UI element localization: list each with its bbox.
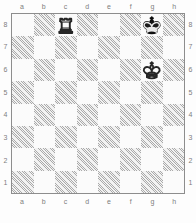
white-rook-icon[interactable] <box>55 14 77 36</box>
square-g4[interactable] <box>141 104 163 126</box>
square-g5[interactable] <box>141 81 163 103</box>
file-label-b-top: b <box>33 1 55 13</box>
square-a1[interactable] <box>12 171 34 193</box>
square-f6[interactable] <box>120 59 142 81</box>
square-f7[interactable] <box>120 36 142 58</box>
rank-coordinates-left: 87654321 <box>0 13 11 194</box>
square-h5[interactable] <box>163 81 185 103</box>
square-f4[interactable] <box>120 104 142 126</box>
square-c8[interactable] <box>55 14 77 36</box>
square-a5[interactable] <box>12 81 34 103</box>
rank-label-7-left: 7 <box>0 36 11 59</box>
square-e2[interactable] <box>98 148 120 170</box>
file-label-a-bottom: a <box>11 196 33 208</box>
file-label-d-bottom: d <box>76 196 98 208</box>
file-label-g-top: g <box>142 1 164 13</box>
rank-label-3-left: 3 <box>0 126 11 149</box>
square-e8[interactable] <box>98 14 120 36</box>
square-b3[interactable] <box>34 126 56 148</box>
square-f8[interactable] <box>120 14 142 36</box>
square-c4[interactable] <box>55 104 77 126</box>
square-d7[interactable] <box>77 36 99 58</box>
rank-label-6-right: 6 <box>185 58 196 81</box>
square-h4[interactable] <box>163 104 185 126</box>
square-g1[interactable] <box>141 171 163 193</box>
chess-board-widget: abcdefgh 87654321 87654321 abcdefgh <box>0 0 196 223</box>
square-b6[interactable] <box>34 59 56 81</box>
square-e3[interactable] <box>98 126 120 148</box>
file-label-f-bottom: f <box>120 196 142 208</box>
square-c3[interactable] <box>55 126 77 148</box>
square-d3[interactable] <box>77 126 99 148</box>
black-king-icon[interactable] <box>141 14 163 36</box>
square-g3[interactable] <box>141 126 163 148</box>
square-c7[interactable] <box>55 36 77 58</box>
square-b1[interactable] <box>34 171 56 193</box>
square-d2[interactable] <box>77 148 99 170</box>
square-g7[interactable] <box>141 36 163 58</box>
square-c6[interactable] <box>55 59 77 81</box>
square-g8[interactable] <box>141 14 163 36</box>
file-label-b-bottom: b <box>33 196 55 208</box>
square-h6[interactable] <box>163 59 185 81</box>
square-b4[interactable] <box>34 104 56 126</box>
square-d8[interactable] <box>77 14 99 36</box>
square-a7[interactable] <box>12 36 34 58</box>
square-h1[interactable] <box>163 171 185 193</box>
file-label-c-bottom: c <box>55 196 77 208</box>
square-e5[interactable] <box>98 81 120 103</box>
square-f5[interactable] <box>120 81 142 103</box>
square-b8[interactable] <box>34 14 56 36</box>
square-g2[interactable] <box>141 148 163 170</box>
rank-label-4-right: 4 <box>185 104 196 127</box>
rank-label-1-right: 1 <box>185 171 196 194</box>
square-f2[interactable] <box>120 148 142 170</box>
white-king-icon[interactable] <box>141 59 163 81</box>
square-h3[interactable] <box>163 126 185 148</box>
square-e4[interactable] <box>98 104 120 126</box>
square-a2[interactable] <box>12 148 34 170</box>
square-d4[interactable] <box>77 104 99 126</box>
file-label-f-top: f <box>120 1 142 13</box>
file-label-c-top: c <box>55 1 77 13</box>
square-a4[interactable] <box>12 104 34 126</box>
square-g6[interactable] <box>141 59 163 81</box>
square-d6[interactable] <box>77 59 99 81</box>
square-d1[interactable] <box>77 171 99 193</box>
square-c1[interactable] <box>55 171 77 193</box>
square-e7[interactable] <box>98 36 120 58</box>
square-a8[interactable] <box>12 14 34 36</box>
square-b7[interactable] <box>34 36 56 58</box>
file-label-h-top: h <box>163 1 185 13</box>
square-h7[interactable] <box>163 36 185 58</box>
square-e6[interactable] <box>98 59 120 81</box>
square-e1[interactable] <box>98 171 120 193</box>
rank-label-1-left: 1 <box>0 171 11 194</box>
chessboard[interactable] <box>11 13 185 194</box>
rank-label-7-right: 7 <box>185 36 196 59</box>
rank-label-5-right: 5 <box>185 81 196 104</box>
square-a6[interactable] <box>12 59 34 81</box>
square-f3[interactable] <box>120 126 142 148</box>
rank-label-2-right: 2 <box>185 149 196 172</box>
file-label-e-bottom: e <box>98 196 120 208</box>
rank-label-5-left: 5 <box>0 81 11 104</box>
file-label-d-top: d <box>76 1 98 13</box>
rank-label-4-left: 4 <box>0 104 11 127</box>
rank-label-3-right: 3 <box>185 126 196 149</box>
square-c5[interactable] <box>55 81 77 103</box>
rank-coordinates-right: 87654321 <box>185 13 196 194</box>
square-b2[interactable] <box>34 148 56 170</box>
rank-label-8-left: 8 <box>0 13 11 36</box>
file-label-e-top: e <box>98 1 120 13</box>
square-b5[interactable] <box>34 81 56 103</box>
square-c2[interactable] <box>55 148 77 170</box>
file-coordinates-top: abcdefgh <box>11 1 185 13</box>
file-label-a-top: a <box>11 1 33 13</box>
square-a3[interactable] <box>12 126 34 148</box>
file-label-h-bottom: h <box>163 196 185 208</box>
square-h2[interactable] <box>163 148 185 170</box>
square-h8[interactable] <box>163 14 185 36</box>
square-f1[interactable] <box>120 171 142 193</box>
square-d5[interactable] <box>77 81 99 103</box>
